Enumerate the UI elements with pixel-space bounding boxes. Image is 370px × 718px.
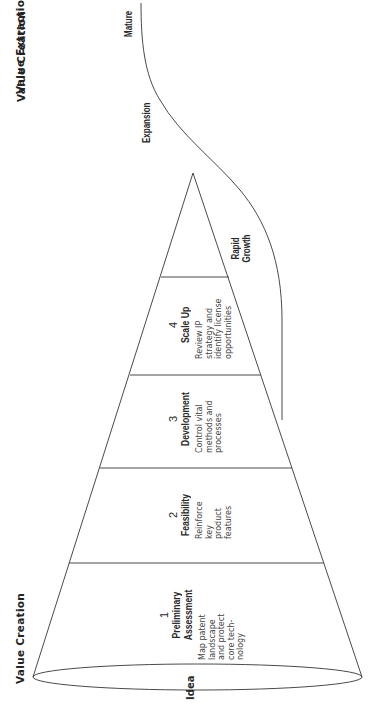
phase-3-number: 3 (167, 374, 179, 464)
phase-4-title: Scale Up (179, 290, 191, 360)
phase-2-description: Reinforce key product features (195, 470, 233, 539)
phase-3: 3 Development Control vital methods and … (167, 374, 224, 464)
phase-2-number: 2 (167, 470, 179, 560)
phase-4: 4 Scale Up Review IP strategy and identi… (167, 280, 233, 370)
phase-1-description: Map patent landscape and protect core te… (198, 570, 246, 660)
phase-1-title-line1: Preliminary (170, 580, 182, 650)
phase-2: 2 Feasibility Reinforce key product feat… (167, 470, 233, 560)
rapid-growth-label: Rapid Growth (230, 231, 252, 266)
expansion-label: Expansion (141, 103, 152, 143)
idea-label: Idea (185, 676, 196, 700)
phase-3-title: Development (179, 384, 191, 454)
phase-2-title: Feasibility (179, 480, 191, 550)
value-extraction-label: Value Extraction (14, 0, 26, 94)
phase-1-title-line2: Assessment (182, 580, 194, 650)
phase-1: 1 Preliminary Assessment Map patent land… (158, 570, 246, 660)
phase-1-number: 1 (158, 570, 170, 660)
mature-label: Mature (123, 11, 134, 37)
phase-3-description: Control vital methods and processes (195, 374, 224, 453)
phase-4-description: Review IP strategy and identify license … (195, 280, 233, 359)
idea-ellipse (33, 664, 362, 690)
phase-4-number: 4 (167, 280, 179, 370)
value-creation-label: Value Creation (14, 593, 26, 684)
